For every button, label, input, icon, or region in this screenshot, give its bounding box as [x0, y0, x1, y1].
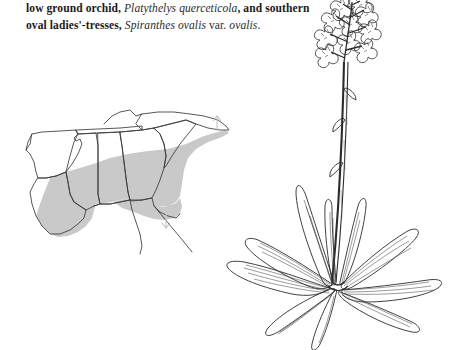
- leaves: [227, 186, 442, 350]
- caption-line1-part1: low ground orchid,: [26, 2, 121, 14]
- stem: [332, 62, 348, 282]
- species-name-platythelys: Platythelys querceticola: [124, 2, 237, 14]
- distribution-map: [8, 106, 240, 256]
- map-range-shading: [36, 130, 229, 237]
- basal-rosette: [227, 186, 442, 350]
- caption-line2-part1: oval ladies'-tresses,: [26, 19, 122, 31]
- flowers: [314, 0, 381, 68]
- plant-illustration: [222, 0, 466, 350]
- species-name-spiranthes: Spiranthes ovalis: [125, 19, 206, 31]
- field-guide-page: low ground orchid, Platythelys quercetic…: [0, 0, 466, 350]
- inflorescence: [314, 0, 381, 68]
